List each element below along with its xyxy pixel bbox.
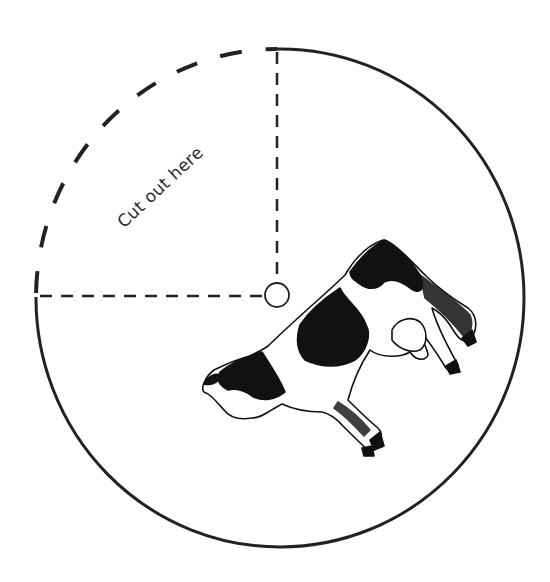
cow-hoof-4 xyxy=(362,446,374,456)
pin-hole-circle[interactable] xyxy=(265,283,289,307)
cut-dashed-arc[interactable] xyxy=(36,49,277,297)
cow-illustration xyxy=(203,240,476,456)
cow-spinner-template: Cut out here xyxy=(0,0,550,582)
template-drawing xyxy=(0,0,550,582)
